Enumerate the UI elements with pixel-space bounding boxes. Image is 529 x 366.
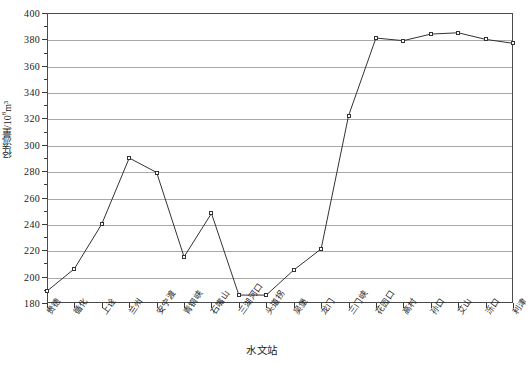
y-axis: 180200220240260280300320340360380400 bbox=[0, 0, 47, 316]
data-point bbox=[429, 32, 433, 36]
data-point bbox=[237, 293, 241, 297]
gridline bbox=[48, 199, 512, 200]
gridline bbox=[48, 67, 512, 68]
y-tick-label: 280 bbox=[24, 166, 40, 177]
gridline bbox=[48, 225, 512, 226]
data-point bbox=[347, 114, 351, 118]
y-tick-label: 300 bbox=[24, 139, 40, 150]
data-point bbox=[511, 41, 515, 45]
data-point bbox=[484, 37, 488, 41]
y-tick-label: 400 bbox=[24, 8, 40, 19]
data-point bbox=[155, 171, 159, 175]
data-point bbox=[319, 247, 323, 251]
gridline bbox=[48, 278, 512, 279]
gridline bbox=[48, 93, 512, 94]
data-point bbox=[45, 289, 49, 293]
y-tick-label: 180 bbox=[24, 298, 40, 309]
gridline bbox=[48, 146, 512, 147]
data-point bbox=[209, 211, 213, 215]
y-tick-label: 200 bbox=[24, 271, 40, 282]
y-tick-label: 380 bbox=[24, 34, 40, 45]
x-tick-label: 利津 bbox=[511, 296, 529, 316]
gridline bbox=[48, 172, 512, 173]
data-point bbox=[456, 31, 460, 35]
data-point bbox=[100, 222, 104, 226]
plot-area bbox=[47, 13, 513, 303]
data-point bbox=[72, 267, 76, 271]
y-tick-label: 240 bbox=[24, 218, 40, 229]
data-point bbox=[127, 156, 131, 160]
data-point bbox=[401, 39, 405, 43]
y-tick-label: 320 bbox=[24, 113, 40, 124]
data-point bbox=[182, 255, 186, 259]
y-tick-label: 260 bbox=[24, 192, 40, 203]
y-tick-label: 220 bbox=[24, 245, 40, 256]
y-tick-label: 340 bbox=[24, 87, 40, 98]
y-tick-label: 360 bbox=[24, 60, 40, 71]
data-point bbox=[264, 293, 268, 297]
data-point bbox=[292, 268, 296, 272]
gridline bbox=[48, 40, 512, 41]
data-point bbox=[374, 36, 378, 40]
gridline bbox=[48, 119, 512, 120]
gridline bbox=[48, 251, 512, 252]
x-axis-title: 水文站 bbox=[0, 342, 524, 357]
